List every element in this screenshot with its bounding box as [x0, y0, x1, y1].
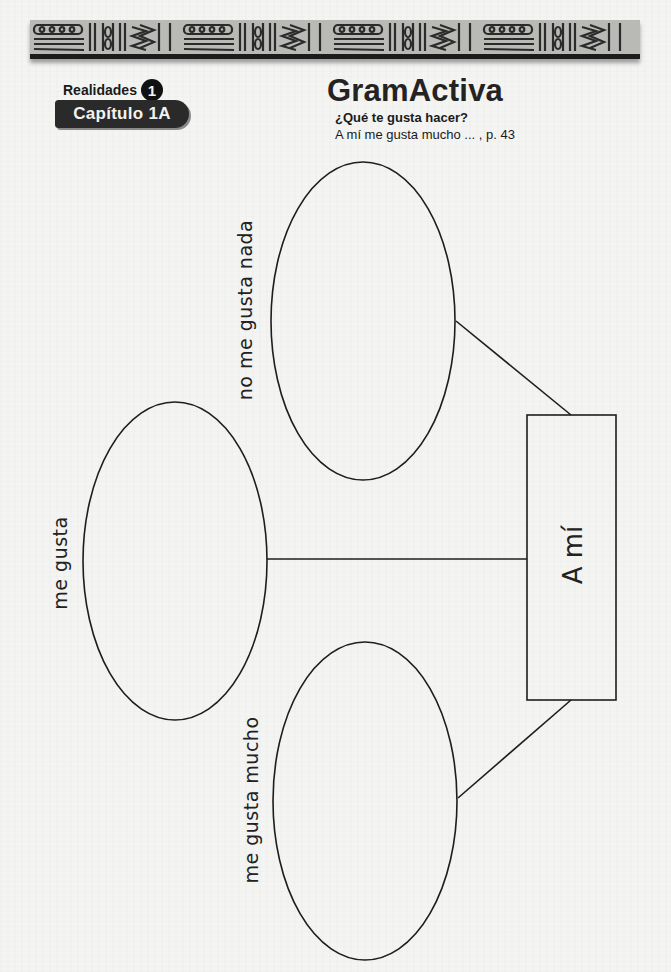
graphic-organizer: [0, 0, 671, 972]
connector-top: [456, 321, 571, 415]
oval-label-top: no me gusta nada: [234, 220, 256, 400]
oval-label-left: me gusta: [49, 516, 71, 609]
connector-bottom: [458, 700, 571, 798]
oval-no-me-gusta-nada[interactable]: [271, 162, 455, 480]
oval-me-gusta-mucho[interactable]: [273, 642, 457, 960]
oval-me-gusta[interactable]: [83, 402, 267, 720]
oval-label-bottom: me gusta mucho: [240, 716, 262, 883]
center-box-label: A mí: [558, 526, 588, 585]
